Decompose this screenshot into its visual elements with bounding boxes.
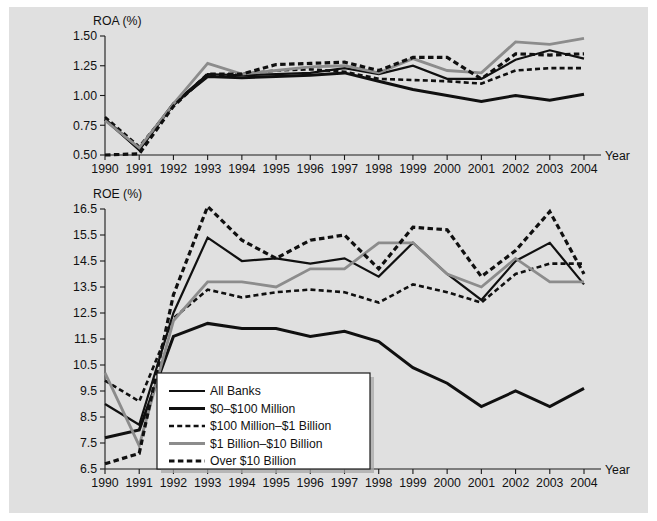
roe-x-tick-label: 1996 [297, 476, 325, 490]
roa-chart: ROA (%)0.500.751.001.251.501990199119921… [9, 7, 648, 187]
roa-axis-title: ROA (%) [93, 14, 142, 28]
legend-label-1b_10b: $1 Billion–$10 Billion [210, 437, 322, 451]
roe-y-tick-label: 8.5 [80, 410, 97, 424]
roa-x-tick-label: 1994 [228, 162, 256, 176]
roe-y-tick-label: 6.5 [80, 462, 97, 476]
roa-x-tick-label: 1990 [91, 162, 119, 176]
roe-x-tick-label: 2004 [570, 476, 598, 490]
roe-y-tick-label: 16.5 [73, 202, 97, 216]
roe-x-tick-label: 2000 [433, 476, 461, 490]
legend-label-100m_1b: $100 Million–$1 Billion [210, 419, 331, 433]
roa-y-tick-label: 0.50 [73, 148, 97, 162]
roa-y-tick-label: 1.00 [73, 89, 97, 103]
roe-y-tick-label: 11.5 [74, 332, 97, 346]
roe-y-tick-label: 10.5 [73, 358, 97, 372]
roa-x-tick-label: 1997 [331, 162, 359, 176]
roe-x-tick-label: 2001 [468, 476, 496, 490]
roa-y-tick-label: 0.75 [73, 119, 97, 133]
roe-x-tick-label: 1999 [399, 476, 427, 490]
roe-y-tick-label: 9.5 [80, 384, 97, 398]
roa-x-tick-label: 2003 [536, 162, 564, 176]
roa-x-tick-label: 1992 [160, 162, 188, 176]
figure-root: ROA (%)0.500.751.001.251.501990199119921… [9, 7, 648, 513]
roa-x-tick-label: 2002 [502, 162, 530, 176]
roa-x-tick-label: 2000 [433, 162, 461, 176]
roe-x-tick-label: 1998 [365, 476, 393, 490]
roa-x-tick-label: 1993 [194, 162, 222, 176]
roa-x-tick-label: 1991 [126, 162, 154, 176]
roe-x-tick-label: 1994 [228, 476, 256, 490]
roa-y-tick-label: 1.25 [73, 59, 97, 73]
roe-y-tick-label: 13.5 [73, 280, 97, 294]
legend-label-under_100m: $0–$100 Million [210, 402, 295, 416]
roe-x-tick-label: 1997 [331, 476, 359, 490]
roe-x-tick-label: 2002 [502, 476, 530, 490]
roa-series-under_100m [105, 73, 584, 149]
roa-x-tick-label: 1999 [399, 162, 427, 176]
roe-y-tick-label: 14.5 [73, 254, 97, 268]
roa-x-tick-label: 1998 [365, 162, 393, 176]
roe-x-tick-label: 2003 [536, 476, 564, 490]
roe-x-tick-label: 1990 [91, 476, 119, 490]
roe-x-tick-label: 1992 [160, 476, 188, 490]
roe-x-tick-label: 1995 [262, 476, 290, 490]
roa-x-tick-label: 2004 [570, 162, 598, 176]
roe-axis-title: ROE (%) [93, 187, 142, 201]
roe-y-tick-label: 15.5 [73, 228, 97, 242]
roa-y-tick-label: 1.50 [73, 29, 97, 43]
roe-legend: All Banks$0–$100 Million$100 Million–$1 … [157, 373, 374, 473]
roa-x-tick-label: 1996 [297, 162, 325, 176]
roa-x-tick-label: 1995 [262, 162, 290, 176]
roe-x-tick-label: 1991 [126, 476, 154, 490]
roa-x-axis-title: Year [605, 149, 630, 163]
roe-y-tick-label: 12.5 [73, 306, 97, 320]
legend-label-over_10b: Over $10 Billion [210, 454, 296, 468]
roe-chart: ROE (%)6.57.58.59.510.511.512.513.514.51… [9, 187, 648, 513]
roa-x-tick-label: 2001 [468, 162, 496, 176]
roe-y-tick-label: 7.5 [80, 436, 97, 450]
roa-series-100m_1b [105, 68, 584, 147]
legend-label-all_banks: All Banks [210, 384, 261, 398]
roe-x-axis-title: Year [605, 463, 630, 477]
roe-x-tick-label: 1993 [194, 476, 222, 490]
